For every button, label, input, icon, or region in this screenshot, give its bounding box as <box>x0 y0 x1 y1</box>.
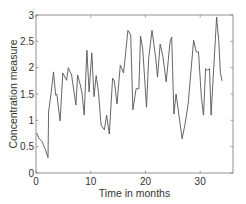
y-tick-label: 1 <box>28 115 34 126</box>
x-axis-label: Time in months <box>99 187 170 199</box>
y-tick-label: 2 <box>28 62 34 73</box>
axis-ticks <box>36 15 233 173</box>
y-axis-label: Concentration measure <box>7 39 19 148</box>
y-tick-label: 3 <box>28 10 34 21</box>
tick-labels: 010203000.511.522.53 <box>20 10 206 188</box>
y-tick-label: 0.5 <box>20 141 34 152</box>
plot-border <box>36 15 233 173</box>
x-tick-label: 10 <box>85 176 97 187</box>
data-line <box>37 17 223 158</box>
plot-frame <box>36 15 233 173</box>
line-chart: 010203000.511.522.53 Time in months Conc… <box>0 0 246 204</box>
y-tick-label: 0 <box>28 168 34 179</box>
y-tick-label: 2.5 <box>20 36 34 47</box>
x-tick-label: 20 <box>140 176 152 187</box>
x-tick-label: 30 <box>195 176 207 187</box>
y-tick-label: 1.5 <box>20 89 34 100</box>
x-tick-label: 0 <box>33 176 39 187</box>
